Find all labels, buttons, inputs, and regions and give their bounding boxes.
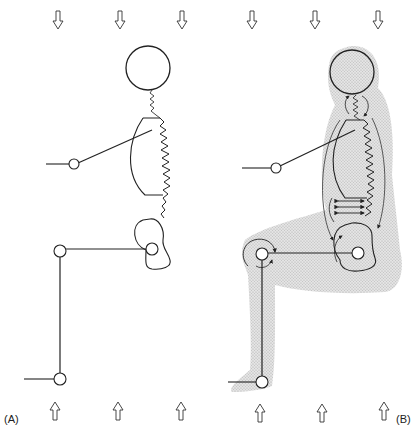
panel-label-b: (B) (396, 413, 411, 425)
panel-b (228, 11, 402, 422)
ankle-joint (256, 376, 268, 388)
spine-spring (160, 118, 170, 218)
upper-limb (78, 130, 152, 163)
biomechanics-diagram (0, 0, 418, 433)
hand-joint (69, 159, 79, 169)
thorax (130, 118, 163, 195)
hand-joint (271, 163, 281, 173)
load-arrows-bottom-a (50, 402, 186, 420)
knee-joint (54, 245, 66, 257)
head (126, 46, 170, 90)
head (330, 50, 374, 94)
soft-tissue (231, 46, 402, 392)
load-arrows-top-b (247, 11, 383, 29)
neck-spring (150, 90, 160, 118)
hip-joint (352, 247, 364, 259)
knee-joint (256, 248, 268, 260)
panel-label-a: (A) (4, 413, 19, 425)
load-arrows-bottom-b (255, 402, 389, 422)
hip-joint (146, 243, 158, 255)
panel-a (24, 11, 187, 420)
ankle-joint (54, 373, 66, 385)
load-arrows-top-a (53, 11, 187, 29)
